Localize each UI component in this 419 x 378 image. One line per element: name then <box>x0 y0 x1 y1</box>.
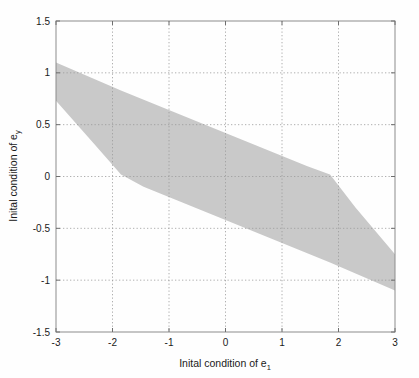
y-tick-label: -1.5 <box>33 327 51 338</box>
x-tick-label: 2 <box>336 337 342 348</box>
x-axis-label: Inital condition of e1 <box>179 357 271 372</box>
x-tick-label: -3 <box>52 337 61 348</box>
y-axis-tick-labels: -1.5-1-0.500.511.5 <box>33 16 51 338</box>
figure-canvas: -3-2-10123 -1.5-1-0.500.511.5 Inital con… <box>0 0 419 378</box>
y-tick-label: 1.5 <box>36 16 50 27</box>
y-tick-label: 0.5 <box>36 119 50 130</box>
x-tick-label: 3 <box>392 337 398 348</box>
y-tick-label: -0.5 <box>33 223 51 234</box>
x-tick-label: 1 <box>279 337 285 348</box>
y-tick-label: 0 <box>44 171 50 182</box>
chart-plot: -3-2-10123 -1.5-1-0.500.511.5 Inital con… <box>0 0 419 378</box>
x-axis-tick-labels: -3-2-10123 <box>52 337 399 348</box>
x-tick-label: 0 <box>223 337 229 348</box>
y-tick-label: 1 <box>44 67 50 78</box>
y-tick-label: -1 <box>41 275 50 286</box>
x-tick-label: -2 <box>108 337 117 348</box>
y-axis-label: Inital condition of ey <box>7 130 22 222</box>
x-tick-label: -1 <box>165 337 174 348</box>
